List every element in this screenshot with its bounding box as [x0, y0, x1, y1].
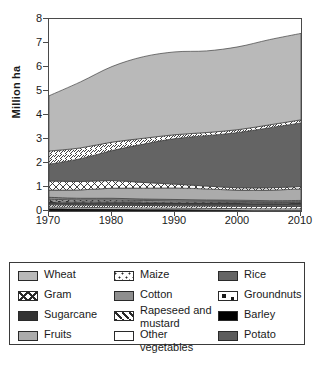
y-tick-label-3: 3 — [22, 133, 42, 143]
legend-label-other-vegetables: Other vegetables — [140, 328, 216, 353]
barley-swatch-icon — [218, 311, 238, 321]
cotton-swatch-icon — [114, 291, 134, 301]
y-tick-label-5: 5 — [22, 85, 42, 95]
y-axis-title: Million ha — [10, 52, 22, 132]
legend-label-rice: Rice — [244, 268, 266, 281]
legend-item-rice[interactable]: Rice — [216, 268, 306, 288]
legend-column-3: Rice Groundnuts Barley Potato — [216, 263, 306, 344]
chart-legend: Wheat Gram Sugarcane Fruits Maize — [9, 262, 305, 345]
legend-column-1: Wheat Gram Sugarcane Fruits — [16, 263, 112, 344]
y-tick-label-2: 2 — [22, 157, 42, 167]
legend-item-sugarcane[interactable]: Sugarcane — [16, 308, 112, 328]
legend-label-fruits: Fruits — [44, 328, 72, 341]
groundnuts-swatch-icon — [218, 291, 238, 301]
chart-figure: Million ha 8 7 6 5 4 3 2 1 0 1970 1980 1… — [0, 0, 321, 368]
legend-item-other-vegetables[interactable]: Other vegetables — [112, 328, 216, 348]
x-tick-label-2000: 2000 — [214, 215, 260, 226]
legend-column-2: Maize Cotton Rapeseed and mustard Other … — [112, 263, 216, 344]
legend-label-gram: Gram — [44, 288, 72, 301]
legend-item-rapeseed-and-mustard[interactable]: Rapeseed and mustard — [112, 308, 216, 328]
area-series-group — [49, 19, 301, 211]
fruits-swatch-icon — [18, 331, 38, 341]
legend-item-wheat[interactable]: Wheat — [16, 268, 112, 288]
x-tick-label-1990: 1990 — [151, 215, 197, 226]
y-tick-label-1: 1 — [22, 181, 42, 191]
y-tick-label-6: 6 — [22, 61, 42, 71]
x-tick-label-1980: 1980 — [88, 215, 134, 226]
sugarcane-swatch-icon — [18, 311, 38, 321]
rapeseed-swatch-icon — [114, 311, 134, 321]
x-tick-label-2010: 2010 — [277, 215, 321, 226]
legend-label-maize: Maize — [140, 268, 169, 281]
y-tick-label-7: 7 — [22, 37, 42, 47]
legend-label-barley: Barley — [244, 308, 275, 321]
legend-item-gram[interactable]: Gram — [16, 288, 112, 308]
legend-item-fruits[interactable]: Fruits — [16, 328, 112, 348]
legend-item-groundnuts[interactable]: Groundnuts — [216, 288, 306, 308]
potato-swatch-icon — [218, 331, 238, 341]
legend-label-groundnuts: Groundnuts — [244, 288, 301, 301]
other-vegetables-swatch-icon — [114, 331, 134, 341]
legend-label-wheat: Wheat — [44, 268, 76, 281]
gram-swatch-icon — [18, 291, 38, 301]
rice-swatch-icon — [218, 271, 238, 281]
maize-swatch-icon — [114, 271, 134, 281]
wheat-swatch-icon — [18, 271, 38, 281]
plot-area — [48, 18, 302, 212]
legend-label-potato: Potato — [244, 328, 276, 341]
legend-item-barley[interactable]: Barley — [216, 308, 306, 328]
legend-label-cotton: Cotton — [140, 288, 172, 301]
legend-item-potato[interactable]: Potato — [216, 328, 306, 348]
legend-label-rapeseed-and-mustard: Rapeseed and mustard — [140, 304, 212, 329]
legend-label-sugarcane: Sugarcane — [44, 308, 97, 321]
y-tick-label-8: 8 — [22, 13, 42, 23]
legend-item-maize[interactable]: Maize — [112, 268, 216, 288]
x-tick-label-1970: 1970 — [25, 215, 71, 226]
y-tick-label-4: 4 — [22, 109, 42, 119]
stacked-area-chart: Million ha 8 7 6 5 4 3 2 1 0 1970 1980 1… — [0, 0, 321, 250]
